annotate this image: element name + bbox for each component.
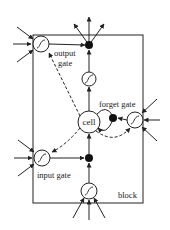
forget-gate-label: forget gate bbox=[99, 99, 136, 109]
output-gate-connection bbox=[49, 44, 85, 45]
forget-gate-input-arrows bbox=[142, 99, 160, 141]
input-gate-label: input gate bbox=[37, 170, 71, 180]
output-gate-label-2: gate bbox=[58, 58, 72, 68]
output-multiply-node bbox=[85, 41, 93, 49]
block-label: block bbox=[118, 190, 138, 200]
forget-gate-node bbox=[127, 112, 143, 128]
output-squash-node bbox=[82, 72, 96, 86]
cell-input-arrows bbox=[73, 198, 105, 220]
forget-gate-connection bbox=[118, 118, 127, 120]
input-multiply-node bbox=[85, 154, 93, 162]
input-gate-node bbox=[34, 150, 50, 166]
output-gate-input-arrows bbox=[13, 27, 33, 62]
input-gate-input-arrows bbox=[14, 140, 34, 176]
forget-multiply-node bbox=[109, 114, 117, 122]
output-gate-label: output bbox=[54, 48, 76, 58]
cell-label: cell bbox=[83, 117, 96, 127]
cell-input-node bbox=[81, 183, 97, 199]
peephole-forget bbox=[96, 128, 130, 137]
peephole-input bbox=[52, 128, 80, 152]
output-gate-node bbox=[33, 36, 49, 52]
lstm-block-diagram: output gate cell forget gate inpu bbox=[0, 0, 170, 230]
block-output-arrows bbox=[74, 17, 104, 45]
